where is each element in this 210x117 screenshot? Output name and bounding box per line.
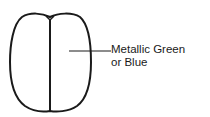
color-label: Metallic Green or Blue [111,43,185,69]
label-line-2: or Blue [111,56,185,69]
label-line-1: Metallic Green [111,43,185,56]
